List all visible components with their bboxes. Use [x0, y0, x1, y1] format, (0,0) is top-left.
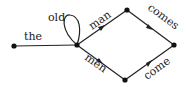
edge-old-loop [64, 15, 80, 45]
label-the: the [24, 30, 42, 43]
node-top [124, 7, 129, 12]
node-hub [74, 42, 79, 47]
node-end [171, 42, 176, 47]
label-old: old [48, 11, 65, 24]
node-start [11, 43, 16, 48]
label-come: come [141, 54, 173, 82]
word-lattice-diagram: the old man men comes come [0, 0, 188, 87]
label-men: men [82, 51, 109, 75]
node-bottom [122, 77, 127, 82]
edge-the [14, 45, 77, 46]
diagram-canvas: the old man men comes come [0, 0, 188, 87]
